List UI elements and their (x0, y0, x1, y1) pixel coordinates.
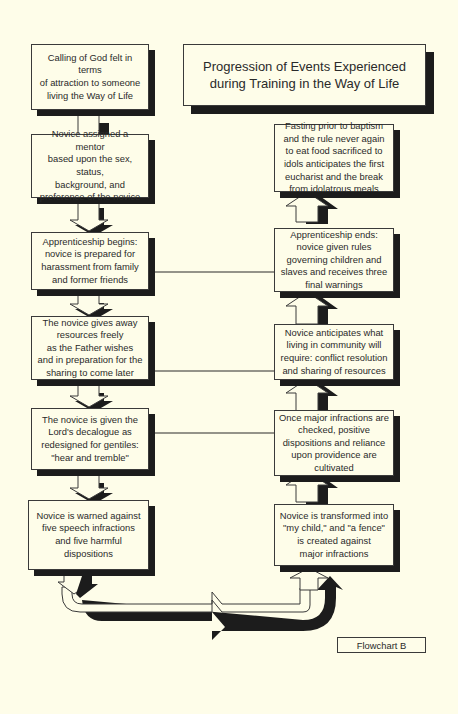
up-arrow-r2-r1 (286, 192, 338, 224)
step-box-apprenticeship-begins: Apprenticeship begins: novice is prepare… (31, 232, 149, 290)
step-box-anticipates-community: Novice anticipates what living in commun… (274, 324, 394, 380)
step-box-warned: Novice is warned against five speech inf… (28, 500, 149, 570)
step-box-gives-away-resources: The novice gives away resources freely a… (31, 316, 149, 380)
u-turn-arrow-l6-r5 (58, 568, 343, 640)
flowchart-label: Flowchart B (337, 637, 426, 653)
diagram-title: Progression of Events Experienced during… (183, 44, 426, 106)
step-box-infractions-checked: Once major infractions are checked, posi… (274, 410, 394, 476)
step-box-apprenticeship-ends: Apprenticeship ends: novice given rules … (274, 228, 394, 292)
step-box-calling: Calling of God felt in terms of attracti… (31, 44, 149, 110)
line-arrow-l3-r2 (155, 268, 288, 276)
step-box-transformed: Novice is transformed into "my child," a… (274, 504, 394, 566)
step-box-fasting: Fasting prior to baptism and the rule ne… (274, 124, 394, 192)
line-arrow-l5-r4 (155, 429, 288, 437)
line-arrow-l4-r3 (155, 367, 288, 375)
step-box-mentor: Novice assigned a mentor based upon the … (31, 134, 149, 198)
step-box-decalogue: The novice is given the Lord's decalogue… (31, 408, 149, 470)
up-arrow-r3-r2 (286, 292, 338, 326)
down-arrow-l5-l6 (70, 470, 113, 504)
